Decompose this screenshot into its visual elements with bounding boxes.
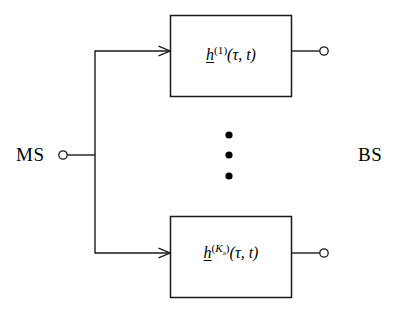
block-k-superscript-subscript: a [223, 249, 226, 257]
diagram-canvas: MS BS h(1)(τ, t) h(Ka)(τ, t) [0, 0, 407, 314]
block-1-label: h(1)(τ, t) [206, 46, 256, 64]
block-k-arguments: (τ, t) [230, 244, 259, 261]
vertical-ellipsis-icon [225, 131, 232, 179]
block-1-arguments: (τ, t) [227, 46, 256, 63]
block-1-base-symbol: h [206, 46, 214, 63]
block-k-base-symbol: h [204, 244, 212, 261]
ms-terminal-circle [59, 151, 67, 159]
diagram-vector-layer [0, 0, 407, 314]
block-k-output-terminal-circle [320, 249, 328, 257]
block-1-superscript: (1) [214, 44, 227, 56]
bs-label: BS [358, 144, 382, 166]
block-k-label: h(Ka)(τ, t) [204, 244, 259, 262]
block-k-superscript: (Ka) [212, 242, 230, 254]
block-1-output-terminal-circle [320, 47, 328, 55]
ms-label: MS [16, 144, 44, 166]
